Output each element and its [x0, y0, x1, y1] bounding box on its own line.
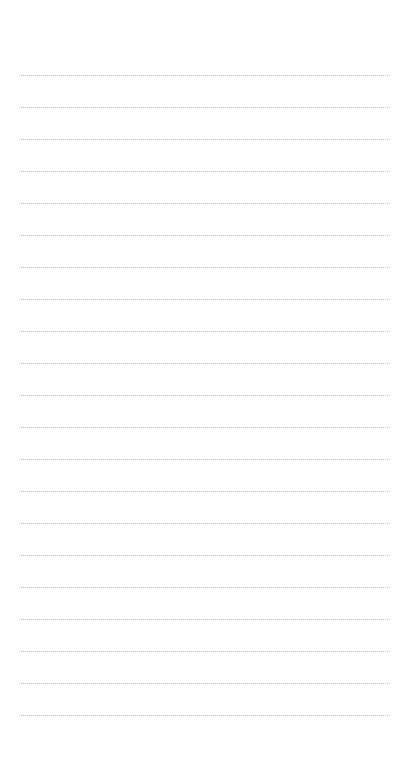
- ruled-line: [19, 363, 390, 364]
- ruled-line: [19, 395, 390, 396]
- ruled-line: [19, 235, 390, 236]
- ruled-line: [19, 683, 390, 684]
- ruled-line: [19, 267, 390, 268]
- ruled-line: [19, 555, 390, 556]
- ruled-line: [19, 171, 390, 172]
- ruled-line: [19, 651, 390, 652]
- ruled-line: [19, 107, 390, 108]
- ruled-line: [19, 75, 390, 76]
- ruled-line: [19, 331, 390, 332]
- ruled-line: [19, 619, 390, 620]
- ruled-line: [19, 427, 390, 428]
- ruled-line: [19, 203, 390, 204]
- ruled-line: [19, 459, 390, 460]
- ruled-line: [19, 139, 390, 140]
- ruled-line: [19, 523, 390, 524]
- ruled-line: [19, 587, 390, 588]
- lined-notepad-page: [0, 0, 402, 758]
- ruled-line: [19, 299, 390, 300]
- ruled-line: [19, 715, 390, 716]
- ruled-line: [19, 491, 390, 492]
